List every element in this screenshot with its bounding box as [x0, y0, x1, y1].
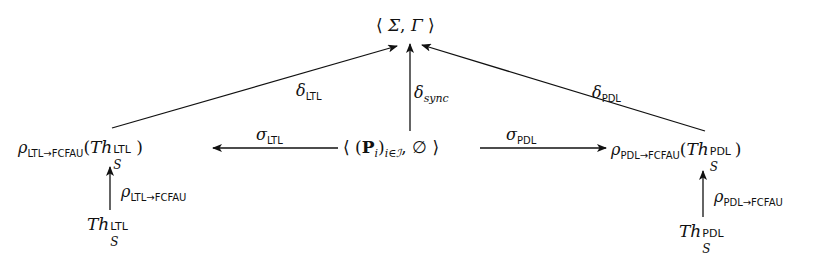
comma: , [400, 15, 405, 35]
edge-subscript: sync [424, 92, 449, 105]
edge-subscript: PDL [517, 135, 536, 146]
node-th-ltl: ThLTLS [87, 216, 133, 233]
edge-subscript: LTL→FCFAU [130, 192, 186, 203]
superscript: LTL [110, 221, 127, 232]
delta-symbol: δ [592, 83, 602, 102]
superscript: PDL [702, 228, 723, 239]
rho-symbol: ρ [611, 140, 620, 159]
edge-subscript: PDL→FCFAU [723, 197, 782, 208]
paren-close: ) [136, 137, 143, 157]
angle-open: ⟨ [376, 15, 383, 35]
delta-symbol: δ [296, 81, 306, 100]
node-rho-pdl-theory: ρPDL→FCFAU(ThPDLS) [611, 141, 741, 161]
label-sigma-ltl: σLTL [256, 127, 283, 146]
paren-close: ) [378, 137, 385, 157]
label-rho-pdl: ρPDL→FCFAU [714, 189, 783, 208]
superscript: PDL [710, 146, 731, 157]
subscript-S: S [710, 161, 718, 173]
theory-symbol: Th [679, 221, 701, 241]
rho-symbol: ρ [18, 138, 27, 157]
rho-subscript: LTL→FCFAU [27, 148, 83, 159]
node-products-empty: ⟨ (Pi)i∈ℐ, ∅ ⟩ [343, 139, 439, 159]
delta-symbol: δ [414, 83, 424, 102]
label-sigma-pdl: σPDL [506, 127, 536, 146]
node-th-pdl: ThPDLS [679, 223, 727, 240]
delta-ltl-arrow [112, 46, 397, 128]
edge-subscript: LTL [306, 91, 322, 102]
subscript-S: S [110, 236, 118, 248]
theory-symbol: Th [90, 137, 112, 157]
node-rho-ltl-theory: ρLTL→FCFAU(ThLTLS) [18, 139, 143, 159]
subscript-S: S [113, 159, 121, 171]
rho-symbol: ρ [121, 182, 130, 201]
gamma-symbol: Γ [411, 15, 423, 35]
node-sigma-gamma: ⟨ Σ, Γ ⟩ [376, 17, 435, 34]
angle-close: ⟩ [433, 137, 440, 157]
edge-subscript: LTL [267, 135, 283, 146]
label-delta-sync: δsync [414, 85, 449, 104]
sigma-symbol: σ [256, 125, 267, 144]
angle-open: ⟨ [343, 137, 350, 157]
comma: , [401, 137, 406, 157]
subscript-S: S [702, 243, 710, 255]
theory-symbol: Th [686, 139, 708, 159]
label-delta-pdl: δPDL [592, 85, 621, 104]
sigma-symbol: σ [506, 125, 517, 144]
empty-set-symbol: ∅ [412, 137, 427, 157]
P-symbol: P [362, 137, 375, 157]
label-delta-ltl: δLTL [296, 83, 322, 102]
label-rho-ltl: ρLTL→FCFAU [121, 184, 186, 203]
sigma-symbol: Σ [388, 15, 400, 35]
delta-pdl-arrow [422, 45, 705, 131]
paren-open: ( [355, 137, 362, 157]
theory-symbol: Th [87, 214, 109, 234]
superscript: LTL [113, 144, 130, 155]
index-set: i∈ℐ [385, 147, 402, 160]
edge-subscript: PDL [602, 93, 621, 104]
angle-close: ⟩ [428, 15, 435, 35]
paren-close: ) [735, 139, 742, 159]
rho-subscript: PDL→FCFAU [620, 150, 679, 161]
rho-symbol: ρ [714, 187, 723, 206]
